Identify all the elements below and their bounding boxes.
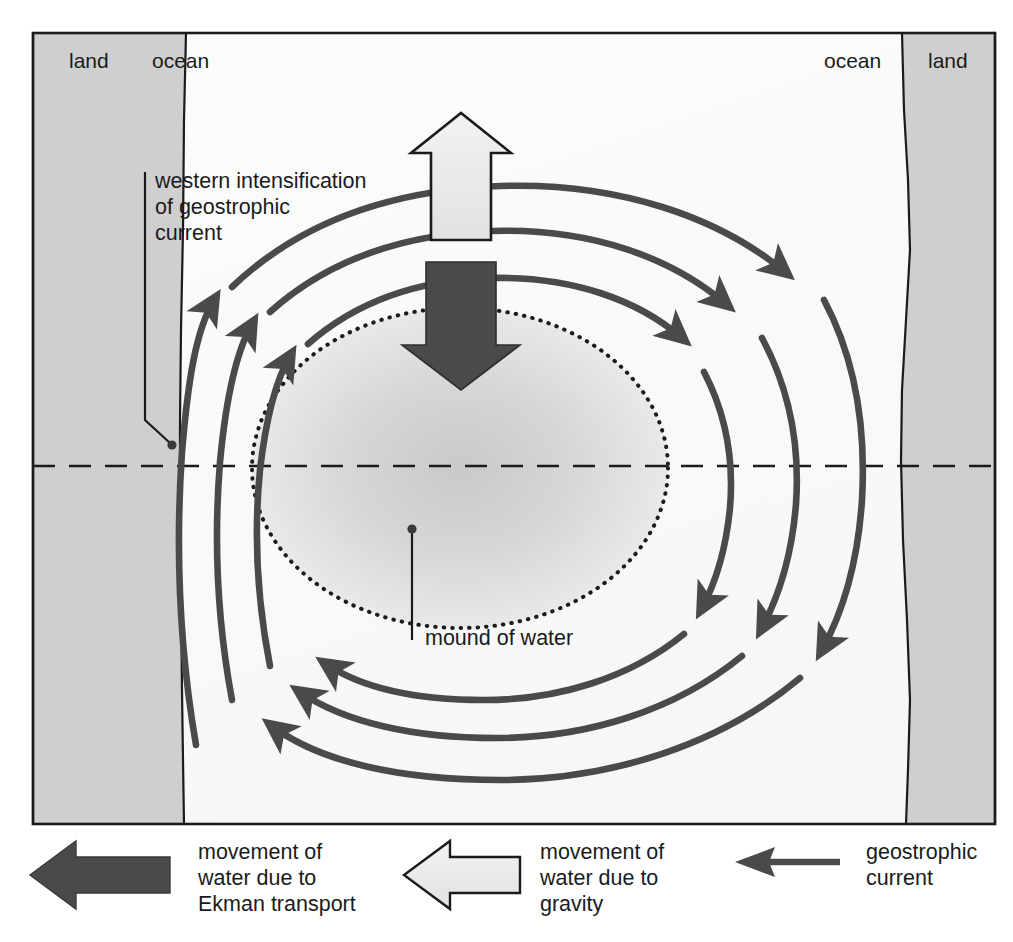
mound-leader-dot xyxy=(407,524,416,533)
legend-item-ekman: movement of water due to Ekman transport xyxy=(30,840,356,916)
land-left xyxy=(33,33,186,824)
label-ocean-left: ocean xyxy=(152,49,209,72)
legend-ekman-line3: Ekman transport xyxy=(198,892,356,916)
mound-label: mound of water xyxy=(425,626,573,650)
label-land-left: land xyxy=(69,49,109,72)
legend-geostrophic-line2: current xyxy=(866,866,933,890)
figure-root: land ocean ocean land xyxy=(0,0,1013,942)
label-ocean-right: ocean xyxy=(824,49,881,72)
basin-panel: land ocean ocean land xyxy=(33,33,995,824)
legend-icon-geostrophic-head xyxy=(735,847,775,877)
land-right xyxy=(901,33,995,824)
legend-geostrophic-line1: geostrophic xyxy=(866,840,977,864)
legend-item-gravity: movement of water due to gravity xyxy=(404,840,664,916)
legend: movement of water due to Ekman transport… xyxy=(30,840,977,916)
legend-icon-gravity-arrow xyxy=(404,841,520,909)
legend-icon-ekman-arrow xyxy=(30,841,170,909)
legend-ekman-line1: movement of xyxy=(198,840,322,864)
legend-ekman-line2: water due to xyxy=(197,866,316,890)
western-intensification-line2: of geostrophic xyxy=(155,195,290,219)
ocean-gyre-diagram: land ocean ocean land xyxy=(0,0,1013,942)
western-intensification-leader-dot xyxy=(167,440,176,449)
label-land-right: land xyxy=(928,49,968,72)
legend-gravity-line3: gravity xyxy=(540,892,604,916)
legend-gravity-line2: water due to xyxy=(539,866,658,890)
western-intensification-line3: current xyxy=(155,221,222,245)
legend-gravity-line1: movement of xyxy=(540,840,664,864)
legend-item-geostrophic: geostrophic current xyxy=(735,840,977,890)
western-intensification-line1: western intensification xyxy=(154,169,367,193)
